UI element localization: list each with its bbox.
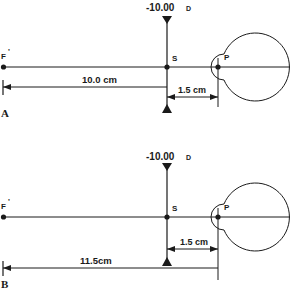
- focal-label-b: F: [1, 202, 6, 211]
- lens-point-dot: [164, 214, 169, 219]
- panel-label-a: A: [1, 107, 9, 119]
- focal-label-a: F: [1, 52, 6, 61]
- lens-top-triangle-icon: [162, 163, 172, 171]
- lens-unit-b: D: [186, 154, 191, 161]
- lens-point-dot: [164, 64, 169, 69]
- vertex-distance-label-b: 1.5 cm: [180, 237, 208, 247]
- vertex-arrow-right-icon: [210, 246, 218, 252]
- eye-point-label-b: P: [224, 203, 230, 212]
- lens-point-label-a: S: [172, 54, 178, 63]
- diagram-canvas: -10.00 D F ' S P 10.0 cm 1.5 cm A -10.00…: [0, 0, 290, 291]
- focal-point-dot: [1, 214, 6, 219]
- vertex-arrow-right-icon: [210, 94, 218, 100]
- lens-unit-a: D: [186, 5, 191, 12]
- panel-a: [1, 16, 290, 113]
- vertex-distance-label-a: 1.5 cm: [178, 85, 206, 95]
- focal-distance-label-b: 11.5cm: [80, 255, 112, 266]
- lens-bottom-triangle-icon: [162, 104, 172, 113]
- panel-label-b: B: [1, 278, 9, 290]
- vertex-arrow-left-icon: [167, 94, 175, 100]
- lens-power-b: -10.00: [146, 151, 175, 162]
- vertex-arrow-left-icon: [167, 246, 175, 252]
- focal-arrow-icon: [3, 84, 11, 90]
- lens-point-label-b: S: [172, 204, 178, 213]
- lens-top-triangle-icon: [162, 16, 172, 24]
- focal-point-dot: [1, 64, 6, 69]
- lens-power-a: -10.00: [146, 2, 175, 13]
- lens-bottom-triangle-icon: [162, 257, 172, 266]
- panel-b: [1, 163, 290, 280]
- eye-point-label-a: P: [224, 53, 230, 62]
- focal-distance-label-a: 10.0 cm: [82, 74, 117, 85]
- focal-arrow-icon: [3, 265, 11, 271]
- focal-prime-a: ': [8, 47, 10, 56]
- focal-prime-b: ': [8, 197, 10, 206]
